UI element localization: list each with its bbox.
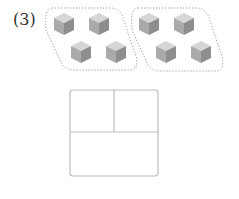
cube-icon [174, 13, 194, 35]
cube-icon [106, 41, 126, 63]
cube-icon [139, 13, 159, 35]
cube-icon [54, 13, 74, 35]
group-1-cubes [54, 13, 126, 63]
cube-icon [89, 13, 109, 35]
cube-icon [191, 41, 211, 63]
answer-box [70, 90, 158, 176]
group-2-cubes [139, 13, 211, 63]
diagram-canvas [0, 0, 239, 199]
cube-icon [156, 41, 176, 63]
cube-icon [71, 41, 91, 63]
